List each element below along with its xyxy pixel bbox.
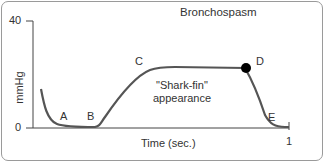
point-label-d: D <box>256 56 264 67</box>
point-label-b: B <box>87 111 94 122</box>
y-axis-label: mmHg <box>14 71 25 105</box>
x-axis-label: Time (sec.) <box>141 138 196 149</box>
point-label-a: A <box>60 111 67 122</box>
y-tick-label-0: 0 <box>15 122 21 133</box>
annotation-line-1: "Shark-fin" <box>156 80 208 91</box>
y-tick-label-40: 40 <box>9 15 21 26</box>
point-label-c: C <box>135 56 143 67</box>
point-label-e: E <box>268 112 275 123</box>
annotation-line-2: appearance <box>153 93 211 104</box>
marker-d <box>241 63 251 73</box>
x-tick-label-1: 1 <box>286 136 292 147</box>
chart-title: Bronchospasm <box>180 7 257 19</box>
